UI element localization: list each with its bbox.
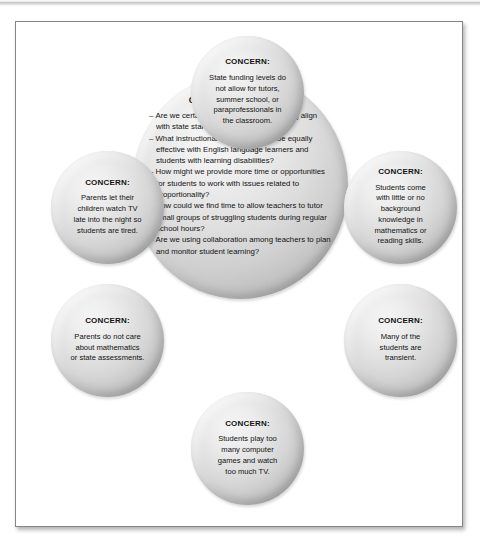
concern-bubble-right-bottom: CONCERN: Many of the students are transi… <box>344 284 457 397</box>
concern-label: CONCERN: <box>85 317 130 326</box>
concern-text: Students play too many computer games an… <box>199 434 297 477</box>
concern-text: Many of the students are transient. <box>352 332 450 364</box>
concern-label: CONCERN: <box>378 168 423 177</box>
circle-of-influence-question: Are we using collaboration among teacher… <box>149 234 331 257</box>
concern-text: Parents do not care about mathematics or… <box>59 332 157 364</box>
circle-of-influence-question: How might we provide more time or opport… <box>149 166 331 200</box>
concern-bubble-left-bottom: CONCERN: Parents do not care about mathe… <box>51 284 164 397</box>
concern-text: Parents let their children watch TV late… <box>59 193 157 236</box>
concern-label: CONCERN: <box>85 179 130 188</box>
concern-bubble-bottom: CONCERN: Students play too many computer… <box>191 392 304 505</box>
concern-label: CONCERN: <box>378 317 423 326</box>
concern-bubble-right-top: CONCERN: Students come with little or no… <box>344 151 457 264</box>
concern-bubble-left-top: CONCERN: Parents let their children watc… <box>51 151 164 264</box>
concern-label: CONCERN: <box>225 420 270 429</box>
circle-of-influence-diagram: CIRCLE OF INFLUENCE Are we certain that … <box>16 22 462 526</box>
concern-text: State funding levels do not allow for tu… <box>199 73 297 127</box>
circle-of-influence-question: How could we find time to allow teachers… <box>149 200 331 234</box>
scan-artifact-bar <box>0 0 480 6</box>
concern-text: Students come with little or no backgrou… <box>352 183 450 248</box>
concern-label: CONCERN: <box>225 58 270 67</box>
figure-frame: CIRCLE OF INFLUENCE Are we certain that … <box>15 21 463 527</box>
concern-bubble-top: CONCERN: State funding levels do not all… <box>191 36 304 149</box>
